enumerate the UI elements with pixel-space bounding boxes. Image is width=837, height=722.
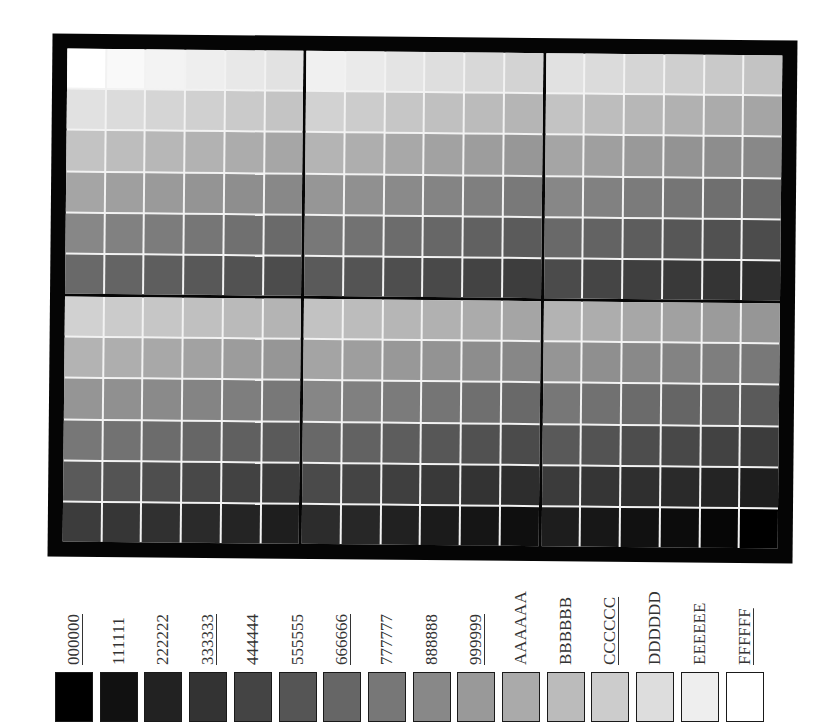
swatch-label: AAAAAA <box>512 591 530 665</box>
swatch-555555 <box>279 672 317 722</box>
swatch-label: CCCCCC <box>601 597 619 665</box>
swatch-AAAAAA <box>502 672 540 722</box>
swatch-CCCCCC <box>591 672 629 722</box>
swatch-label: 888888 <box>423 614 441 665</box>
swatch-666666 <box>323 672 361 722</box>
swatch-label: FFFFFF <box>736 608 754 665</box>
swatch-label: 999999 <box>467 614 485 665</box>
swatch-label: 444444 <box>244 614 262 665</box>
swatch-DDDDDD <box>636 672 674 722</box>
swatch-222222 <box>144 672 182 722</box>
swatch-label: 666666 <box>333 614 351 665</box>
swatch-label: 333333 <box>199 614 217 665</box>
swatch-777777 <box>368 672 406 722</box>
swatch-label: BBBBBB <box>557 597 575 665</box>
swatch-444444 <box>234 672 272 722</box>
swatch-label: DDDDDD <box>646 591 664 665</box>
swatch-999999 <box>457 672 495 722</box>
swatch-label: 555555 <box>289 614 307 665</box>
swatch-label: EEEEEE <box>691 603 709 665</box>
swatch-888888 <box>413 672 451 722</box>
swatch-FFFFFF <box>726 672 764 722</box>
swatch-label: 222222 <box>154 614 172 665</box>
swatch-label: 777777 <box>378 614 396 665</box>
swatch-EEEEEE <box>681 672 719 722</box>
swatch-label: 111111 <box>110 617 128 665</box>
swatch-000000 <box>55 672 93 722</box>
swatch-BBBBBB <box>547 672 585 722</box>
swatch-label: 000000 <box>65 614 83 665</box>
swatch-333333 <box>189 672 227 722</box>
swatch-111111 <box>100 672 138 722</box>
